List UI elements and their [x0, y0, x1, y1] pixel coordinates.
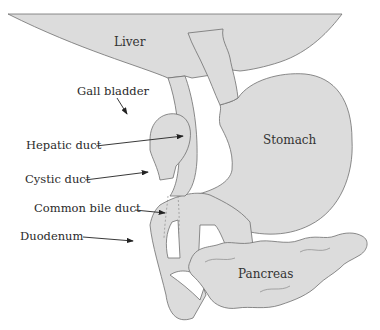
hepatic-duct-label: Hepatic duct	[26, 140, 101, 152]
gall-bladder-arrow	[117, 98, 127, 114]
digestive-anatomy-diagram: Liver Stomach Pancreas Gall bladder Hepa…	[0, 0, 380, 330]
anatomy-illustration	[0, 0, 380, 330]
stomach-label: Stomach	[263, 134, 316, 146]
duodenum-arrow	[83, 237, 133, 241]
duodenum-label: Duodenum	[20, 231, 83, 243]
pancreas-label: Pancreas	[238, 268, 293, 280]
cystic-duct-label: Cystic duct	[25, 174, 90, 186]
liver-label: Liver	[114, 36, 145, 48]
common-bile-duct-label: Common bile duct	[34, 203, 141, 215]
gall-bladder-label: Gall bladder	[77, 86, 149, 98]
liver-shape	[8, 14, 342, 78]
cystic-duct-arrow	[85, 172, 148, 180]
